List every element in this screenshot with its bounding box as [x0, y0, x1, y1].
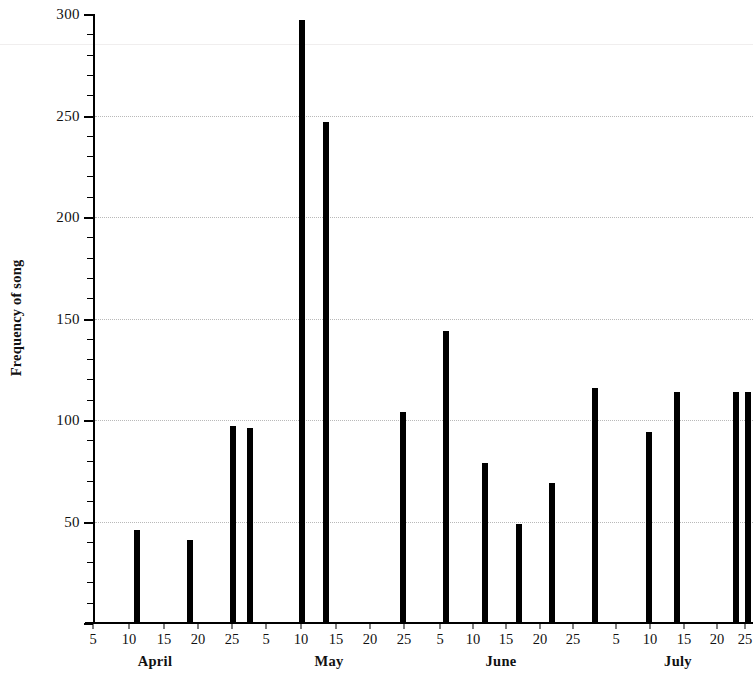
x-tick-label-april-20: 20 — [191, 631, 206, 648]
x-tick-label-june-5: 5 — [436, 631, 443, 648]
gridline-250 — [95, 116, 753, 117]
y-tick-140 — [87, 339, 93, 340]
y-tick-70 — [87, 481, 93, 482]
gridline-100 — [95, 420, 753, 421]
x-tick-july-10 — [650, 623, 651, 629]
x-tick-june-20 — [540, 623, 541, 629]
bar — [400, 412, 406, 623]
y-tick-130 — [87, 359, 93, 360]
bar — [674, 392, 680, 623]
bar — [745, 392, 751, 623]
y-tick-280 — [87, 55, 93, 56]
y-tick-label-300: 300 — [56, 6, 80, 23]
bar — [187, 540, 193, 623]
y-tick-10 — [87, 603, 93, 604]
x-tick-label-july-10: 10 — [643, 631, 658, 648]
x-tick-may-5 — [266, 623, 267, 629]
chart-figure: Frequency of song 30025020015010050 5101… — [0, 0, 753, 682]
y-tick-90 — [87, 440, 93, 441]
x-tick-april-25 — [232, 623, 233, 629]
x-tick-label-may-10: 10 — [294, 631, 309, 648]
y-tick-210 — [87, 197, 93, 198]
bar — [646, 432, 652, 623]
bar — [230, 426, 236, 623]
x-tick-june-10 — [473, 623, 474, 629]
x-tick-label-may-15: 15 — [329, 631, 344, 648]
x-axis-line — [85, 622, 753, 624]
y-tick-180 — [87, 258, 93, 259]
x-tick-label-april-10: 10 — [122, 631, 137, 648]
y-tick-150 — [84, 319, 93, 321]
y-tick-160 — [87, 298, 93, 299]
y-tick-190 — [87, 237, 93, 238]
y-tick-240 — [87, 136, 93, 137]
y-tick-label-150: 150 — [56, 310, 80, 327]
bar — [516, 524, 522, 623]
y-tick-260 — [87, 95, 93, 96]
x-tick-april-10 — [129, 623, 130, 629]
y-tick-20 — [87, 582, 93, 583]
gridline-200 — [95, 217, 753, 218]
y-tick-label-100: 100 — [56, 412, 80, 429]
y-tick-270 — [87, 75, 93, 76]
x-tick-july-15 — [684, 623, 685, 629]
x-tick-label-july-5: 5 — [612, 631, 619, 648]
x-tick-label-april-25: 25 — [225, 631, 240, 648]
x-tick-june-25 — [573, 623, 574, 629]
x-tick-april-5 — [93, 623, 94, 629]
y-tick-230 — [87, 156, 93, 157]
month-label-june: June — [485, 653, 516, 670]
y-tick-label-200: 200 — [56, 209, 80, 226]
x-tick-label-june-25: 25 — [566, 631, 581, 648]
bar — [482, 463, 488, 623]
bar — [247, 428, 253, 623]
x-tick-april-15 — [164, 623, 165, 629]
x-tick-label-april-15: 15 — [157, 631, 172, 648]
x-tick-label-may-25: 25 — [397, 631, 412, 648]
x-tick-label-may-5: 5 — [262, 631, 269, 648]
y-tick-label-250: 250 — [56, 107, 80, 124]
y-tick-50 — [84, 522, 93, 524]
x-tick-label-july-15: 15 — [677, 631, 692, 648]
month-label-july: July — [664, 653, 692, 670]
x-tick-label-june-15: 15 — [499, 631, 514, 648]
y-tick-300 — [84, 14, 93, 16]
x-tick-june-15 — [506, 623, 507, 629]
month-label-april: April — [138, 653, 173, 670]
bar — [733, 392, 739, 623]
x-tick-may-10 — [301, 623, 302, 629]
y-tick-100 — [84, 420, 93, 422]
x-tick-july-20 — [717, 623, 718, 629]
y-tick-80 — [87, 461, 93, 462]
x-tick-label-may-20: 20 — [363, 631, 378, 648]
x-tick-label-july-25: 25 — [738, 631, 753, 648]
x-tick-may-15 — [336, 623, 337, 629]
x-tick-april-20 — [198, 623, 199, 629]
plot-area: 30025020015010050 5101520255101520255101… — [93, 14, 753, 623]
y-tick-label-50: 50 — [64, 513, 80, 530]
x-tick-may-25 — [404, 623, 405, 629]
x-tick-may-20 — [370, 623, 371, 629]
y-tick-170 — [87, 278, 93, 279]
y-tick-110 — [87, 400, 93, 401]
y-axis-title: Frequency of song — [8, 260, 25, 377]
bar — [549, 483, 555, 623]
x-tick-label-june-20: 20 — [533, 631, 548, 648]
bar — [134, 530, 140, 623]
x-tick-label-april-5: 5 — [89, 631, 96, 648]
x-tick-label-july-20: 20 — [710, 631, 725, 648]
x-tick-july-5 — [616, 623, 617, 629]
x-tick-july-25 — [745, 623, 746, 629]
month-label-may: May — [314, 653, 343, 670]
y-tick-220 — [87, 176, 93, 177]
y-tick-290 — [87, 34, 93, 35]
x-tick-label-june-10: 10 — [466, 631, 481, 648]
y-tick-30 — [87, 562, 93, 563]
gridline-50 — [95, 522, 753, 523]
bar — [323, 122, 329, 623]
bar — [299, 20, 305, 623]
gridline-150 — [95, 319, 753, 320]
y-tick-120 — [87, 379, 93, 380]
bar — [443, 331, 449, 623]
y-tick-250 — [84, 116, 93, 118]
